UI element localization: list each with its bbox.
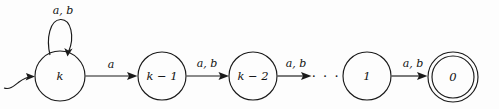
state-k-minus-1-label: k − 1 <box>146 69 177 83</box>
edge-label-k-to-k1: a <box>108 58 115 71</box>
edge-label-k-self: a, b <box>53 4 74 17</box>
state-k-minus-2-label: k − 2 <box>237 69 268 83</box>
ellipsis: · · · <box>312 69 341 84</box>
state-0-label: 0 <box>449 70 456 84</box>
state-k-minus-1[interactable]: k − 1 <box>138 52 186 100</box>
state-0-accepting[interactable]: 0 <box>428 52 478 102</box>
state-k[interactable]: k <box>35 51 85 101</box>
edge-label-one-to-zero: a, b <box>403 57 424 70</box>
state-1[interactable]: 1 <box>343 52 391 100</box>
automaton-canvas: a, b a a, b a, b · · · a, b k <box>0 0 499 109</box>
state-k-label: k <box>57 69 64 83</box>
edge-label-k1-to-k2: a, b <box>197 57 218 70</box>
edge-one-to-zero <box>392 72 428 80</box>
edge-k2-to-one <box>278 72 312 80</box>
edge-k1-to-k2 <box>187 72 230 80</box>
edge-k-to-k1 <box>86 72 138 80</box>
automaton-diagram: a, b a a, b a, b · · · a, b k <box>0 0 499 109</box>
state-1-label: 1 <box>363 69 370 83</box>
edge-label-k2-to-one: a, b <box>286 57 307 70</box>
state-k-minus-2[interactable]: k − 2 <box>229 52 277 100</box>
start-arrow-icon <box>4 73 35 89</box>
